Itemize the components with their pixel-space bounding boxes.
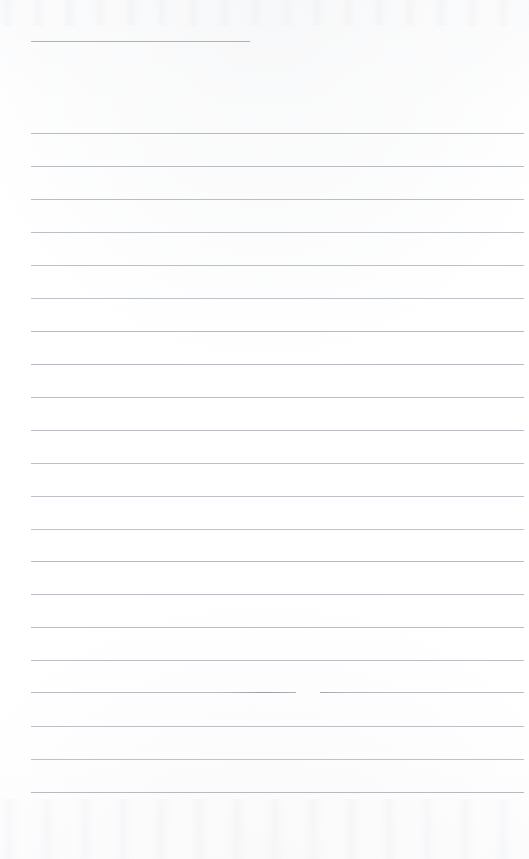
broken-rule-segment-right [320,692,524,693]
rule-line [31,792,524,793]
rule-line [31,41,250,42]
rule-line [31,364,524,365]
rule-line [31,133,524,134]
rule-line [31,232,524,233]
rule-line [31,199,524,200]
rule-line [31,265,524,266]
rule-line [31,496,524,497]
rule-line [31,430,524,431]
rule-line [31,627,524,628]
broken-rule-segment-left [31,692,296,693]
rule-line [31,759,524,760]
rule-line [31,561,524,562]
rule-line [31,298,524,299]
scanned-page [0,0,529,859]
rule-line [31,331,524,332]
rule-line [31,397,524,398]
scan-noise-bottom-band [0,799,529,859]
rule-line [31,166,524,167]
rule-line [31,660,524,661]
rule-line [31,726,524,727]
rule-line [31,529,524,530]
scan-noise-top-band [0,0,529,26]
rule-line [31,463,524,464]
rule-line [31,594,524,595]
